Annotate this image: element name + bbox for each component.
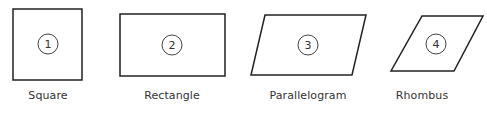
square-number: 1	[45, 38, 52, 51]
rhombus-label: Rhombus	[396, 89, 448, 102]
parallelogram-label: Parallelogram	[269, 89, 346, 102]
square-label: Square	[28, 89, 67, 102]
parallelogram-number: 3	[305, 39, 312, 52]
rectangle-label: Rectangle	[144, 89, 200, 102]
rectangle-number: 2	[169, 39, 176, 52]
rhombus-number: 4	[433, 38, 440, 51]
